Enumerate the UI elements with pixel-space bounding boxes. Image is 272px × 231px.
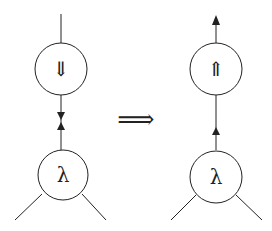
- left-bottom-left-edge: [15, 194, 42, 220]
- right-diagram: ⇑ λ: [171, 15, 262, 220]
- lambda-label: λ: [57, 163, 70, 187]
- rewrite-rule-diagram: ⇓ λ ⟹ ⇑ λ: [0, 0, 272, 231]
- lambda-label: λ: [210, 165, 223, 189]
- left-diagram: ⇓ λ: [15, 14, 106, 220]
- double-down-arrow-icon: ⇓: [53, 57, 70, 81]
- right-bottom-left-edge: [171, 195, 196, 220]
- down-arrowhead-icon: [57, 112, 65, 120]
- up-arrowhead-icon: [212, 127, 220, 135]
- right-bottom-right-edge: [236, 195, 262, 220]
- up-arrowhead-icon: [212, 15, 220, 25]
- up-arrowhead-icon: [57, 122, 65, 130]
- double-up-arrow-icon: ⇑: [208, 57, 225, 81]
- implies-arrow-icon: ⟹: [117, 104, 154, 134]
- left-bottom-right-edge: [82, 194, 106, 220]
